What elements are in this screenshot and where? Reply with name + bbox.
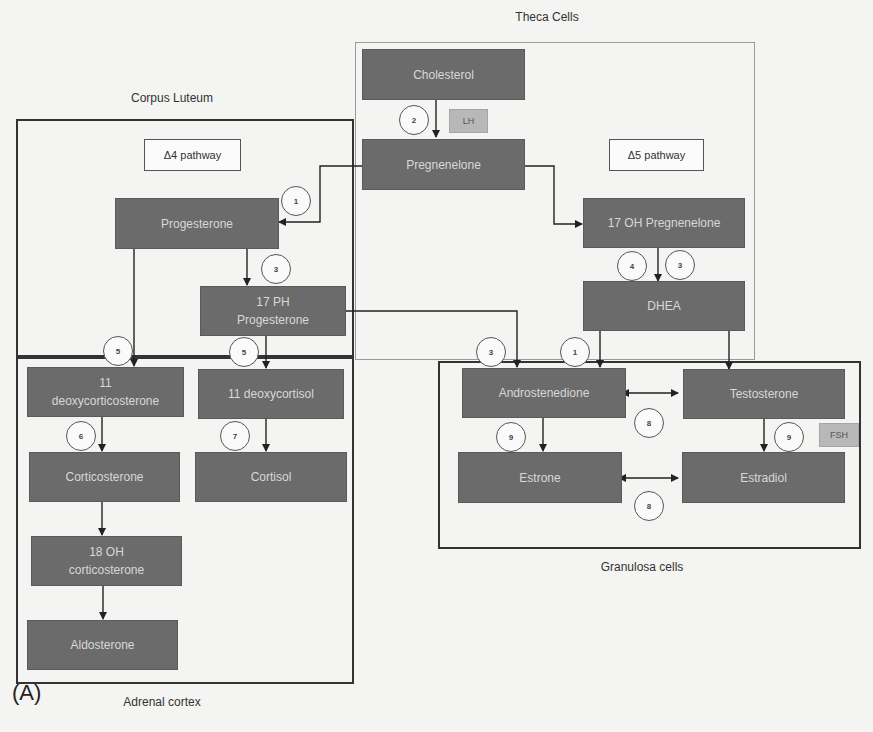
node-18oh-corticosterone-line1: 18 OH — [89, 543, 124, 561]
node-17oh-pregnenolone: 17 OH Pregnenelone — [583, 198, 745, 248]
enzyme-5-progesterone-doc: 5 — [103, 336, 133, 366]
node-11-deoxycortisol: 11 deoxycortisol — [198, 369, 344, 419]
enzyme-1-pregnenolone-progesterone: 1 — [281, 186, 311, 216]
enzyme-2-cholesterol-pregnenolone: 2 — [399, 105, 429, 135]
node-17ph-progesterone: 17 PH Progesterone — [200, 286, 346, 336]
node-estradiol: Estradiol — [682, 452, 845, 503]
node-cortisol: Cortisol — [195, 452, 347, 502]
enzyme-9-testosterone-estradiol: 9 — [774, 422, 804, 452]
enzyme-9-androstenedione-estrone: 9 — [496, 422, 526, 452]
node-progesterone: Progesterone — [115, 198, 279, 249]
node-17ph-progesterone-line2: Progesterone — [237, 311, 309, 329]
node-11-deoxycorticosterone-line2: deoxycorticosterone — [52, 392, 159, 410]
lh-tag: LH — [449, 109, 488, 133]
enzyme-5-17ph-deoxycortisol: 5 — [229, 337, 259, 367]
node-18oh-corticosterone: 18 OH corticosterone — [31, 536, 182, 586]
node-11-deoxycorticosterone: 11 deoxycorticosterone — [27, 367, 184, 417]
enzyme-3-17ph-androstenedione: 3 — [476, 337, 506, 367]
node-cholesterol: Cholesterol — [362, 49, 525, 100]
enzyme-3-17ohpreg-dhea: 3 — [665, 250, 695, 280]
node-aldosterone: Aldosterone — [27, 620, 178, 670]
fsh-tag: FSH — [819, 423, 859, 447]
enzyme-8-androstenedione-testosterone: 8 — [634, 408, 664, 438]
node-androstenedione: Androstenedione — [462, 368, 626, 418]
node-17ph-progesterone-line1: 17 PH — [256, 293, 289, 311]
enzyme-3-progesterone-17ph: 3 — [261, 254, 291, 284]
node-18oh-corticosterone-line2: corticosterone — [69, 561, 144, 579]
enzyme-7-deoxycortisol-cortisol: 7 — [220, 421, 250, 451]
node-11-deoxycorticosterone-line1: 11 — [99, 374, 111, 392]
node-testosterone: Testosterone — [683, 369, 845, 419]
panel-label: (A) — [12, 680, 41, 706]
node-dhea: DHEA — [583, 281, 745, 331]
node-pregnenolone: Pregnenelone — [362, 139, 525, 190]
node-corticosterone: Corticosterone — [29, 452, 180, 502]
enzyme-1-dhea-androstenedione: 1 — [560, 337, 590, 367]
enzyme-8-estrone-estradiol: 8 — [634, 491, 664, 521]
node-estrone: Estrone — [458, 452, 622, 503]
enzyme-4-17ohpreg-dhea: 4 — [617, 251, 647, 281]
steroidogenesis-diagram: Theca Cells Corpus Luteum Adrenal cortex… — [0, 0, 873, 732]
enzyme-6-doc-corticosterone: 6 — [66, 421, 96, 451]
